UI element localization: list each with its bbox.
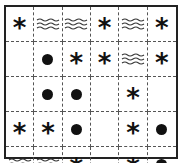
grid-cell-r5-c5: * — [119, 147, 147, 163]
grid-cell-r1-c6: * — [148, 7, 176, 42]
grid-cell-r3-c2 — [34, 77, 62, 112]
dot-icon — [42, 54, 53, 65]
grid-cell-r1-c5 — [119, 7, 147, 42]
asterisk-icon: * — [70, 50, 84, 76]
grid-cell-r2-c4: * — [91, 42, 119, 77]
grid-cell-r4-c3 — [63, 112, 91, 147]
grid-cell-r4-c1: * — [6, 112, 34, 147]
grid-cell-r1-c1: * — [6, 7, 34, 42]
asterisk-icon: * — [70, 155, 84, 163]
grid-cell-r2-c3: * — [63, 42, 91, 77]
dot-icon — [42, 89, 53, 100]
grid-cell-r1-c3 — [63, 7, 91, 42]
grid-cell-r5-c6 — [148, 147, 176, 163]
grid-cell-r1-c4: * — [91, 7, 119, 42]
asterisk-icon: * — [13, 120, 27, 146]
grid-cell-r5-c4 — [91, 147, 119, 163]
asterisk-icon: * — [155, 15, 169, 41]
dot-icon — [156, 124, 167, 135]
grid-cell-r2-c2 — [34, 42, 62, 77]
asterisk-icon: * — [126, 120, 140, 146]
grid-cell-r4-c2: * — [34, 112, 62, 147]
grid-cell-r1-c2 — [34, 7, 62, 42]
wave-icon — [8, 158, 32, 163]
asterisk-icon: * — [126, 85, 140, 111]
grid-cell-r3-c4 — [91, 77, 119, 112]
asterisk-icon: * — [13, 15, 27, 41]
grid-cell-r3-c5: * — [119, 77, 147, 112]
grid-cell-r4-c4 — [91, 112, 119, 147]
wave-icon — [36, 158, 60, 163]
grid-cell-r3-c6 — [148, 77, 176, 112]
dot-icon — [156, 159, 167, 164]
asterisk-icon: * — [41, 120, 55, 146]
wave-icon — [121, 18, 145, 30]
asterisk-icon: * — [98, 50, 112, 76]
wave-icon — [64, 18, 88, 30]
dot-icon — [71, 124, 82, 135]
grid-cell-r2-c5 — [119, 42, 147, 77]
asterisk-icon: * — [155, 50, 169, 76]
grid-cell-r5-c2 — [34, 147, 62, 163]
grid-cell-r2-c6: * — [148, 42, 176, 77]
grid-cell-r3-c3 — [63, 77, 91, 112]
asterisk-icon: * — [126, 155, 140, 163]
dot-icon — [71, 89, 82, 100]
grid-cell-r5-c1 — [6, 147, 34, 163]
grid-cell-r4-c5: * — [119, 112, 147, 147]
grid-cell-r3-c1 — [6, 77, 34, 112]
asterisk-icon: * — [98, 15, 112, 41]
wave-icon — [121, 53, 145, 65]
wave-icon — [36, 18, 60, 30]
grid-cell-r5-c3: * — [63, 147, 91, 163]
symbol-grid: ************ — [4, 5, 178, 159]
grid-cell-r4-c6 — [148, 112, 176, 147]
grid-cell-r2-c1 — [6, 42, 34, 77]
